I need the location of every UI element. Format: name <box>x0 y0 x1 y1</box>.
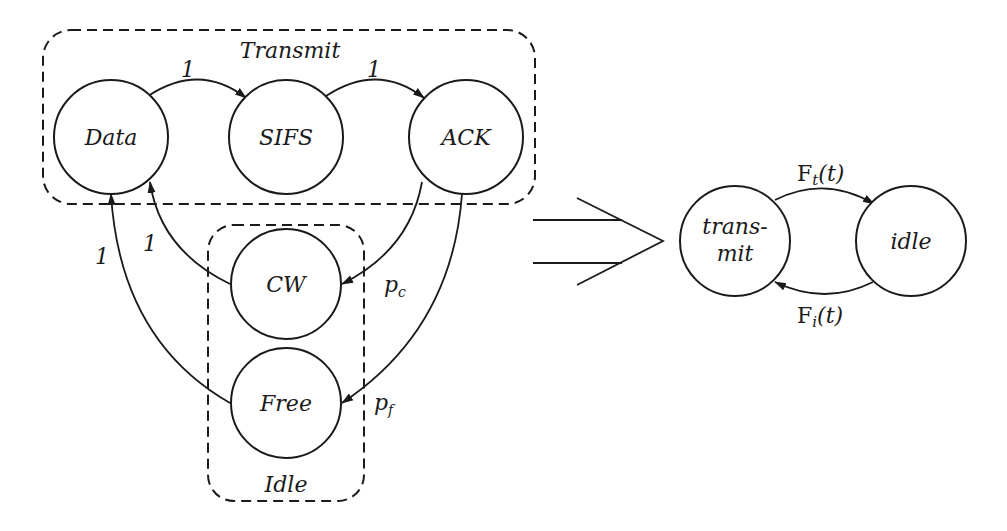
edge-sifs-ack <box>326 79 424 98</box>
svg-text:idle: idle <box>890 229 931 254</box>
node-data: Data <box>54 80 168 194</box>
node-sifs: SIFS <box>229 80 343 194</box>
edge-label-idle-transmit: Fi(t) <box>797 303 843 331</box>
svg-text:CW: CW <box>266 272 308 297</box>
transmit-group-label: Transmit <box>240 38 341 63</box>
svg-text:Free: Free <box>259 391 312 416</box>
edge-idle-transmit <box>775 282 873 294</box>
node-transmit: trans- mit <box>680 186 790 296</box>
node-free: Free <box>231 348 341 458</box>
node-idle: idle <box>856 186 966 296</box>
edge-label-ack-free: pf <box>374 390 396 418</box>
edge-label-data-sifs: 1 <box>181 57 195 82</box>
edge-free-data <box>111 194 230 403</box>
node-ack: ACK <box>409 80 523 194</box>
edge-label-ack-cw: pc <box>384 272 406 300</box>
svg-text:ACK: ACK <box>439 125 492 150</box>
edge-cw-data <box>150 182 230 284</box>
svg-text:mit: mit <box>717 241 754 266</box>
svg-text:trans-: trans- <box>702 214 767 239</box>
svg-text:SIFS: SIFS <box>259 125 313 150</box>
svg-text:Data: Data <box>84 125 138 150</box>
implies-arrow-icon <box>533 198 663 285</box>
edge-data-sifs <box>148 79 246 98</box>
edge-label-cw-data: 1 <box>143 231 157 256</box>
edge-transmit-idle <box>775 188 874 204</box>
edge-ack-cw <box>342 182 422 284</box>
edge-label-free-data: 1 <box>95 244 109 269</box>
edge-label-transmit-idle: Ft(t) <box>797 161 844 189</box>
markov-chain-diagram: Transmit Idle 1 1 pc pf 1 1 Data SIFS AC… <box>0 0 1007 531</box>
idle-group-label: Idle <box>264 472 308 497</box>
node-cw: CW <box>231 229 341 339</box>
edge-label-sifs-ack: 1 <box>367 57 381 82</box>
